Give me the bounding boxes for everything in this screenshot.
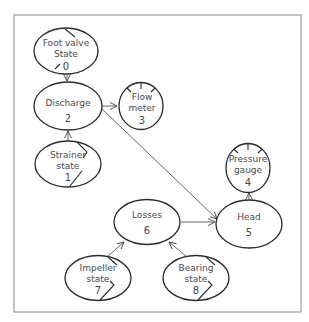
node-label: Losses: [132, 210, 162, 220]
node-number: 5: [246, 227, 252, 238]
node-number: 6: [144, 225, 150, 236]
node-label: Flow: [132, 92, 153, 102]
node-label: Foot valve: [43, 38, 90, 48]
node-foot-valve-state: Foot valve State 0: [34, 28, 98, 74]
node-pressure-gauge: Pressure gauge 4: [226, 144, 270, 193]
node-number: 4: [245, 177, 251, 188]
node-label: Head: [237, 212, 261, 222]
node-label: Impeller: [80, 263, 117, 273]
node-label: Strainer: [50, 150, 86, 160]
node-label: state: [57, 161, 80, 171]
node-flow-meter: Flow meter 3: [119, 83, 163, 130]
node-number: 8: [193, 285, 199, 296]
node-losses: Losses 6: [114, 200, 180, 245]
node-discharge: Discharge 2: [34, 82, 102, 130]
node-strainer-state: Strainer state 1: [35, 141, 101, 187]
node-label: Discharge: [45, 98, 91, 108]
edge-7-to-6: [108, 242, 124, 256]
node-label: State: [54, 49, 78, 59]
node-label: gauge: [234, 165, 263, 175]
node-label: state: [87, 274, 110, 284]
node-number: 2: [65, 113, 71, 124]
node-number: 3: [139, 115, 145, 126]
node-label: state: [185, 274, 208, 284]
node-impeller-state: Impeller state 7: [65, 256, 131, 301]
node-label: Bearing: [179, 263, 214, 273]
node-label: meter: [128, 103, 155, 113]
edge-8-to-6: [169, 242, 186, 256]
node-label: Pressure: [229, 154, 268, 164]
node-number: 1: [65, 172, 71, 183]
node-head: Head 5: [216, 200, 282, 248]
node-bearing-state: Bearing state 8: [163, 256, 229, 301]
node-number: 7: [95, 285, 101, 296]
node-number: 0: [63, 61, 69, 72]
pump-causal-diagram: Foot valve State 0 Discharge 2 Flow mete…: [0, 0, 309, 322]
